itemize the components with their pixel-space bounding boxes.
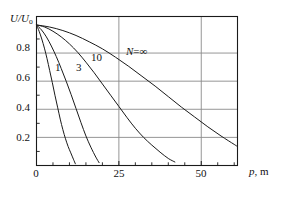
y-axis-subscript: o [29, 17, 33, 26]
curve-∞ [37, 25, 238, 147]
y-tick-label-08: 0.8 [8, 42, 30, 53]
infinity-symbol: ∞ [140, 45, 148, 57]
curve-label-1: 1 [55, 62, 61, 73]
chart-figure: U/Uo 0 25 50 0.8 0.6 0.4 0.2 p, m 1 3 10… [0, 0, 291, 197]
curve-label-3: 3 [76, 62, 82, 73]
x-tick-label-25: 25 [111, 168, 127, 179]
x-tick-label-0: 0 [30, 168, 42, 179]
chart-plot-area [0, 0, 291, 197]
y-tick-label-02: 0.2 [8, 132, 30, 143]
curve-1 [37, 25, 76, 164]
y-tick-label-04: 0.4 [8, 102, 30, 113]
y-axis-label: U/Uo [10, 13, 33, 24]
y-tick-label-06: 0.6 [8, 72, 30, 83]
curve-3 [37, 25, 100, 163]
x-tick-label-50: 50 [193, 168, 209, 179]
curve-10 [37, 25, 175, 162]
curve-label-n-infinity: N=∞ [126, 46, 147, 57]
x-axis-label: p, m [249, 166, 269, 177]
x-axis-unit: , m [255, 165, 269, 177]
curve-label-10: 10 [91, 52, 102, 63]
